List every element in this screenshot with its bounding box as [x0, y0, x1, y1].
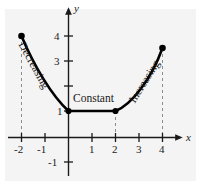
y-axis-label: y	[74, 3, 79, 14]
y-tick-label-neg1: -1	[48, 157, 57, 168]
y-tick-label-1: 1	[57, 106, 63, 117]
y-tick-label-4: 4	[54, 31, 60, 42]
endpoint-dot-0-1	[65, 108, 71, 114]
x-axis-label: x	[186, 132, 191, 143]
x-tick-label-1: 1	[89, 144, 95, 155]
endpoint-dot-4-3p5	[159, 45, 166, 52]
annotation-constant: Constant	[73, 93, 114, 105]
endpoint-dot-neg2-4	[18, 33, 25, 40]
endpoint-dot-2-1	[112, 108, 118, 114]
x-tick-label-neg1: -1	[37, 144, 46, 155]
x-tick-label-2: 2	[112, 144, 118, 155]
function-graph-figure: x y -2 -1 1 2 3 4 4 3 1 -1 Decreasing Co…	[0, 0, 201, 188]
y-tick-label-3: 3	[54, 56, 60, 67]
x-tick-label-4: 4	[159, 144, 165, 155]
x-tick-label-3: 3	[136, 144, 142, 155]
x-tick-label-neg2: -2	[14, 144, 23, 155]
